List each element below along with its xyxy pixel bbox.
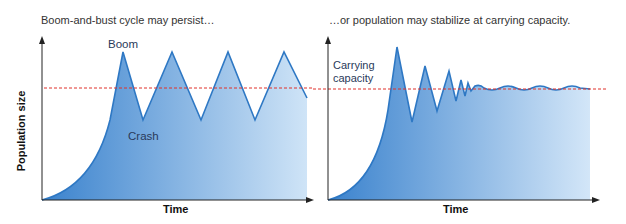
left-chart	[39, 36, 314, 203]
carrying-capacity-label-line1: Carrying	[333, 59, 375, 71]
right-x-axis-label: Time	[443, 203, 468, 215]
left-population-area	[42, 52, 307, 200]
right-x-axis-arrow-icon	[592, 197, 600, 203]
crash-label: Crash	[128, 130, 159, 142]
left-x-axis-label: Time	[163, 203, 188, 215]
left-x-axis-arrow-icon	[306, 197, 314, 203]
right-panel-title: …or population may stabilize at carrying…	[329, 14, 570, 26]
left-panel-title: Boom-and-bust cycle may persist…	[41, 14, 215, 26]
carrying-capacity-label-line2: capacity	[333, 72, 373, 84]
boom-label: Boom	[108, 38, 138, 50]
y-axis-label: Population size	[15, 86, 27, 176]
diagram-canvas	[0, 0, 626, 224]
left-y-axis-arrow-icon	[39, 36, 45, 44]
right-y-axis-arrow-icon	[325, 36, 331, 44]
